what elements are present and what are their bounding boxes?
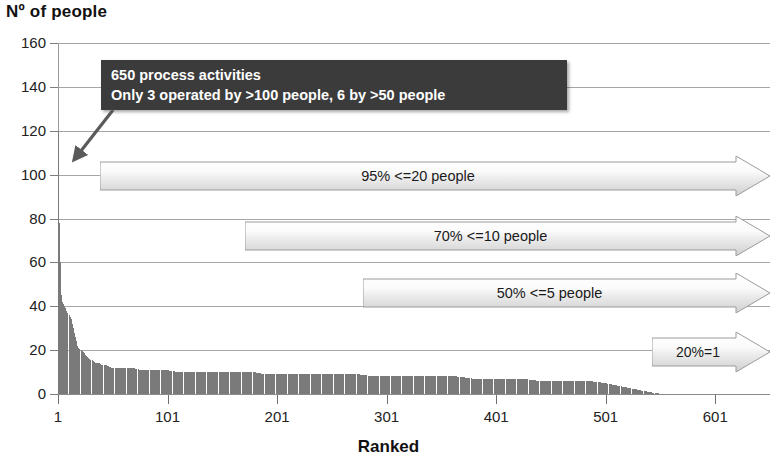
x-tick-301 xyxy=(387,395,388,404)
x-tick-1 xyxy=(58,395,59,404)
x-tick-label-301: 301 xyxy=(374,408,399,425)
y-tick-label-80: 80 xyxy=(0,210,46,227)
x-tick-label-201: 201 xyxy=(265,408,290,425)
callout-line-2: Only 3 operated by >100 people, 6 by >50… xyxy=(111,85,567,105)
x-tick-label-1: 1 xyxy=(54,408,62,425)
x-tick-label-401: 401 xyxy=(484,408,509,425)
y-tick-label-20: 20 xyxy=(0,341,46,358)
banner-arrow-3: 50% <=5 people xyxy=(363,273,770,313)
y-tick-140 xyxy=(50,87,58,88)
x-axis-title: Ranked xyxy=(0,437,777,457)
callout-line-1: 650 process activities xyxy=(111,65,567,85)
x-tick-601 xyxy=(715,395,716,404)
y-tick-0 xyxy=(50,394,58,395)
x-tick-201 xyxy=(277,395,278,404)
y-tick-label-120: 120 xyxy=(0,122,46,139)
chart-title: Nº of people xyxy=(6,2,107,22)
gridline-0 xyxy=(58,394,770,395)
x-tick-401 xyxy=(496,395,497,404)
x-tick-label-101: 101 xyxy=(155,408,180,425)
y-tick-label-60: 60 xyxy=(0,253,46,270)
banner-arrow-4: 20%=1 xyxy=(652,332,770,372)
banner-arrow-1: 95% <=20 people xyxy=(100,156,770,196)
y-tick-label-100: 100 xyxy=(0,166,46,183)
banner-arrow-2: 70% <=10 people xyxy=(245,216,770,256)
y-tick-160 xyxy=(50,43,58,44)
bar xyxy=(658,393,659,394)
y-tick-label-40: 40 xyxy=(0,297,46,314)
y-tick-label-160: 160 xyxy=(0,34,46,51)
x-tick-101 xyxy=(168,395,169,404)
x-tick-501 xyxy=(606,395,607,404)
callout-box: 650 process activities Only 3 operated b… xyxy=(101,60,567,110)
y-tick-label-0: 0 xyxy=(0,385,46,402)
y-tick-label-140: 140 xyxy=(0,78,46,95)
x-tick-label-601: 601 xyxy=(703,408,728,425)
x-tick-label-501: 501 xyxy=(593,408,618,425)
